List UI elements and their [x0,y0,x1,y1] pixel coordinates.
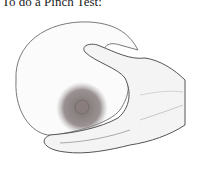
nipple [75,100,89,114]
pinch-test-illustration [0,0,199,179]
